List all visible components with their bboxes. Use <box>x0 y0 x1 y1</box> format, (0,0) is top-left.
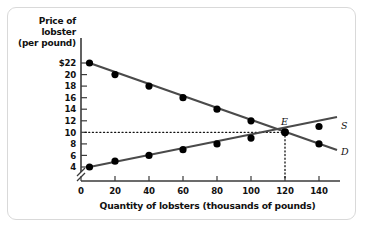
supply-curve-line <box>90 117 338 167</box>
demand-point <box>247 117 254 124</box>
demand-curve-line <box>90 63 338 150</box>
supply-point <box>86 163 93 170</box>
demand-point <box>315 140 322 147</box>
supply-point <box>111 158 118 165</box>
demand-point <box>213 106 220 113</box>
demand-point <box>111 71 118 78</box>
chart-plot-area <box>0 0 365 229</box>
supply-curve <box>86 117 337 171</box>
demand-curve <box>86 59 337 150</box>
demand-point <box>179 94 186 101</box>
demand-point <box>86 59 93 66</box>
x-tick-marks <box>81 176 319 181</box>
equilibrium-guide-lines <box>85 132 285 178</box>
demand-point <box>145 83 152 90</box>
supply-point <box>213 140 220 147</box>
equilibrium-point <box>281 128 289 136</box>
supply-point <box>145 152 152 159</box>
supply-point <box>179 146 186 153</box>
y-tick-marks <box>81 63 87 167</box>
supply-point <box>315 123 322 130</box>
supply-point <box>247 135 254 142</box>
